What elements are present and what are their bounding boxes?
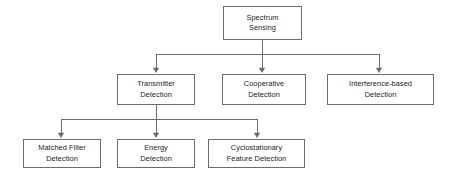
node-label-line1: Spectrum xyxy=(246,13,278,23)
edge-transmitter-bus-arrowhead-2 xyxy=(254,133,260,138)
node-label-line1: Interference-based xyxy=(349,79,412,89)
node-label-line2: Detection xyxy=(46,154,78,164)
node-label-line1: Cooperative xyxy=(244,79,284,89)
node-cyclostationary-feature-detection[interactable]: Cyclostationary Feature Detection xyxy=(208,139,305,168)
node-transmitter-detection[interactable]: Transmitter Detection xyxy=(117,74,195,105)
node-interference-based-detection[interactable]: Interference-based Detection xyxy=(327,74,434,105)
node-energy-detection[interactable]: Energy Detection xyxy=(117,139,195,168)
node-label-line1: Matched Filter xyxy=(38,143,86,153)
node-label-line2: Feature Detection xyxy=(227,154,287,164)
node-spectrum-sensing[interactable]: Spectrum Sensing xyxy=(223,6,302,40)
node-label-line2: Sensing xyxy=(249,23,276,33)
edge-root-bus-arrowhead-1 xyxy=(259,68,265,73)
edge-root-bus-arrowhead-0 xyxy=(153,68,159,73)
spectrum-sensing-taxonomy-diagram: Spectrum Sensing Transmitter Detection C… xyxy=(0,0,451,180)
node-label-line1: Energy xyxy=(144,143,168,153)
edge-root-bus-arrowhead-2 xyxy=(376,68,382,73)
node-matched-filter-detection[interactable]: Matched Filter Detection xyxy=(23,139,101,168)
node-label-line2: Detection xyxy=(248,90,280,100)
edge-transmitter-bus-arrowhead-1 xyxy=(153,133,159,138)
node-label-line2: Detection xyxy=(365,90,397,100)
node-label-line1: Cyclostationary xyxy=(231,143,282,153)
edge-transmitter-bus-arrowhead-0 xyxy=(58,133,64,138)
node-label-line1: Transmitter xyxy=(137,79,175,89)
node-label-line2: Detection xyxy=(140,90,172,100)
node-label-line2: Detection xyxy=(140,154,172,164)
node-cooperative-detection[interactable]: Cooperative Detection xyxy=(222,74,306,105)
